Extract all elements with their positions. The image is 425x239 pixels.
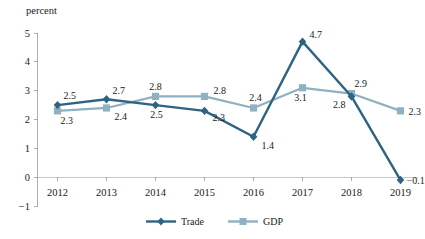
data-point-label: 2.4 (115, 111, 128, 122)
data-point-marker (397, 107, 404, 114)
x-axis-ticks (58, 177, 401, 181)
data-point-label: 2.3 (213, 112, 226, 123)
y-tick-label: −1 (19, 201, 30, 212)
legend-gdp-square-icon (240, 218, 247, 225)
x-tick-label-2017: 2017 (292, 187, 313, 198)
legend-label-gdp: GDP (263, 216, 283, 227)
y-tick-label: 4 (25, 56, 31, 67)
x-tick-label-2016: 2016 (243, 187, 264, 198)
y-tick-label: 0 (25, 172, 30, 183)
y-tick-label: 5 (25, 28, 30, 39)
data-point-marker (250, 104, 257, 111)
data-point-marker (103, 95, 111, 103)
data-point-label: 2.9 (355, 78, 368, 89)
data-point-label: 2.5 (64, 90, 77, 101)
data-point-marker (201, 93, 208, 100)
legend-item-gdp[interactable]: GDP (228, 216, 283, 227)
chart-legend: Trade GDP (146, 216, 283, 227)
y-tick-label: 1 (25, 143, 30, 154)
data-point-label: 2.8 (214, 85, 227, 96)
legend-item-trade[interactable]: Trade (146, 216, 205, 227)
data-point-marker (152, 101, 160, 109)
data-point-marker (152, 93, 159, 100)
y-tick-label: 3 (25, 85, 30, 96)
trade-data-labels: 2.52.72.52.31.44.72.8−0.1 (64, 29, 425, 186)
data-point-label: 2.4 (249, 92, 262, 103)
x-tick-label-2019: 2019 (390, 187, 411, 198)
line-chart-plot: 5 4 3 2 1 0 −1 2012 2013 2014 2015 (0, 0, 425, 239)
data-point-marker (299, 84, 306, 91)
data-point-label: 2.8 (333, 99, 346, 110)
data-point-label: 2.8 (149, 81, 162, 92)
data-point-label: 2.3 (409, 106, 422, 117)
x-tick-label-2015: 2015 (194, 187, 215, 198)
data-point-label: −0.1 (407, 175, 425, 186)
legend-trade-diamond-icon (157, 218, 164, 226)
data-point-label: 3.1 (294, 92, 307, 103)
chart-container: percent 5 4 3 2 1 0 −1 (0, 0, 425, 239)
x-axis-tick-labels: 2012 2013 2014 2015 2016 2017 2018 2019 (47, 187, 411, 198)
data-point-label: 2.5 (150, 109, 163, 120)
y-tick-label: 2 (25, 114, 30, 125)
legend-label-trade: Trade (181, 216, 205, 227)
data-point-marker (201, 107, 209, 115)
x-tick-label-2018: 2018 (341, 187, 362, 198)
x-tick-label-2014: 2014 (145, 187, 167, 198)
x-tick-label-2012: 2012 (47, 187, 68, 198)
data-point-label: 2.3 (61, 115, 74, 126)
data-point-label: 4.7 (310, 29, 323, 40)
y-axis-ticks (34, 33, 38, 206)
y-axis-tick-labels: 5 4 3 2 1 0 −1 (19, 28, 31, 212)
data-point-label: 2.7 (113, 85, 126, 96)
data-point-label: 1.4 (262, 140, 275, 151)
x-tick-label-2013: 2013 (96, 187, 117, 198)
data-point-marker (103, 104, 110, 111)
